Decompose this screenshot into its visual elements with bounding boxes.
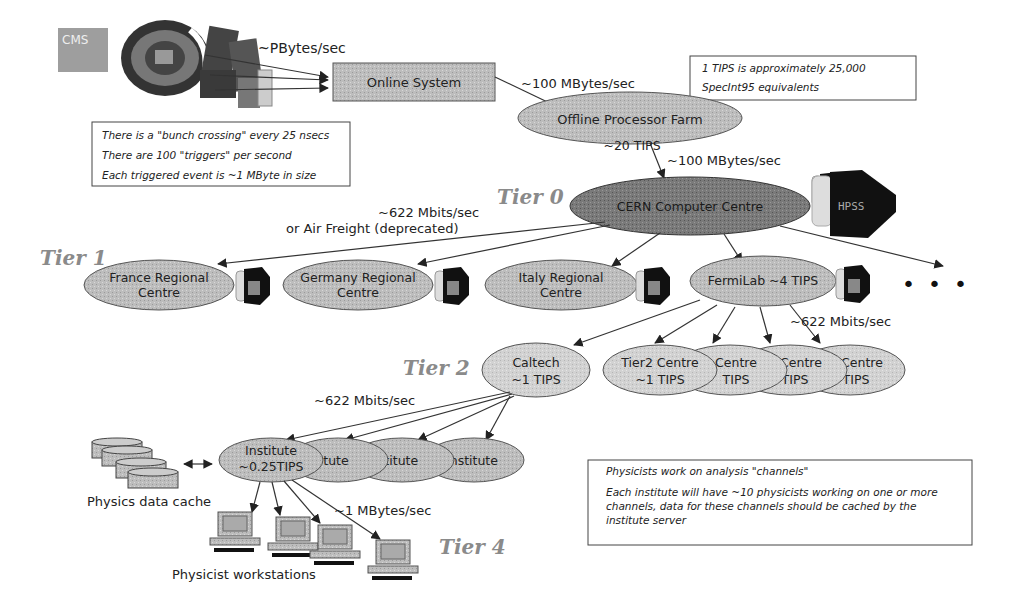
offline-processor-farm-node: Offline Processor Farm ~20 TIPS xyxy=(518,92,742,153)
more-centres-ellipsis: • • • xyxy=(902,272,970,297)
svg-text:Physicists work on analysis "c: Physicists work on analysis "channels" xyxy=(606,465,808,477)
france-regional-centre-node: France Regional Centre xyxy=(84,260,234,310)
svg-text:Caltech: Caltech xyxy=(512,355,559,370)
link-label-622-fermilab: ~622 Mbits/sec xyxy=(790,314,891,329)
italy-regional-centre-node: Italy Regional Centre xyxy=(485,260,637,310)
svg-text:Italy Regional: Italy Regional xyxy=(518,270,603,285)
physicists-note-box: Physicists work on analysis "channels" E… xyxy=(588,460,972,545)
svg-text:1 TIPS is approximately 25,000: 1 TIPS is approximately 25,000 xyxy=(702,62,866,74)
svg-text:Each institute will have ~10 p: Each institute will have ~10 physicists … xyxy=(606,486,938,498)
france-server-icon xyxy=(236,267,270,305)
svg-text:FermiLab ~4 TIPS: FermiLab ~4 TIPS xyxy=(708,273,819,288)
tips-note-box: 1 TIPS is approximately 25,000 SpecInt95… xyxy=(690,56,916,100)
svg-text:Institute: Institute xyxy=(245,443,297,458)
svg-text:SpecInt95 equivalents: SpecInt95 equivalents xyxy=(702,81,820,93)
fermilab-server-icon xyxy=(836,265,870,303)
svg-text:Centre: Centre xyxy=(715,355,757,370)
svg-text:Germany Regional: Germany Regional xyxy=(300,270,415,285)
svg-text:Each triggered event is ~1 MBy: Each triggered event is ~1 MByte in size xyxy=(102,169,316,181)
detector-illustration xyxy=(121,20,272,108)
physicist-workstations-label: Physicist workstations xyxy=(172,567,316,582)
germany-regional-centre-node: Germany Regional Centre xyxy=(283,260,433,310)
tier0-label: Tier 0 xyxy=(497,185,564,209)
link-label-100mb-a: ~100 MBytes/sec xyxy=(521,76,635,91)
physics-data-cache-label: Physics data cache xyxy=(87,494,211,509)
svg-text:Centre: Centre xyxy=(138,285,180,300)
svg-text:France Regional: France Regional xyxy=(109,270,208,285)
svg-text:~1 TIPS: ~1 TIPS xyxy=(635,372,684,387)
link-label-pbytes: ~PBytes/sec xyxy=(258,40,346,56)
online-system-node: Online System xyxy=(333,63,495,101)
tier2-centre-node: Tier2 Centre ~1 TIPS xyxy=(603,345,717,395)
svg-text:~1 TIPS: ~1 TIPS xyxy=(511,372,560,387)
link-label-air-freight: or Air Freight (deprecated) xyxy=(286,221,459,236)
svg-text:Online System: Online System xyxy=(367,75,462,90)
svg-text:There is a "bunch crossing" ev: There is a "bunch crossing" every 25 nse… xyxy=(102,129,330,141)
hpss-big-icon: HPSS xyxy=(812,170,896,238)
caltech-node: Caltech ~1 TIPS xyxy=(482,343,590,397)
fermilab-to-tier2-edges xyxy=(574,300,820,345)
svg-text:tute: tute xyxy=(323,453,349,468)
svg-text:CERN Computer Centre: CERN Computer Centre xyxy=(617,199,764,214)
workstation-icon-4 xyxy=(368,540,418,580)
cms-logo: CMS xyxy=(58,28,108,72)
link-label-622-caltech: ~622 Mbits/sec xyxy=(314,393,415,408)
svg-text:Tier2 Centre: Tier2 Centre xyxy=(620,355,699,370)
fermilab-node: FermiLab ~4 TIPS xyxy=(690,256,836,306)
workstation-icon-3 xyxy=(310,525,360,565)
trigger-note-box: There is a "bunch crossing" every 25 nse… xyxy=(92,122,350,186)
svg-text:~20 TIPS: ~20 TIPS xyxy=(603,138,660,153)
tier2-label: Tier 2 xyxy=(403,356,470,380)
italy-server-icon xyxy=(636,267,670,305)
svg-text:~0.25TIPS: ~0.25TIPS xyxy=(238,459,303,474)
link-label-100mb-b: ~100 MBytes/sec xyxy=(667,153,781,168)
tier4-label: Tier 4 xyxy=(439,535,506,559)
link-label-622-cern: ~622 Mbits/sec xyxy=(378,205,479,220)
tier1-label: Tier 1 xyxy=(40,246,107,270)
germany-server-icon xyxy=(435,267,469,305)
link-label-1mb: ~1 MBytes/sec xyxy=(334,503,431,518)
cms-label: CMS xyxy=(62,33,88,47)
svg-text:channels, data for these chann: channels, data for these channels should… xyxy=(606,500,916,512)
svg-text:institute server: institute server xyxy=(606,514,687,526)
svg-text:HPSS: HPSS xyxy=(838,200,865,213)
workstation-icon-1 xyxy=(210,512,260,552)
svg-text:Offline Processor Farm: Offline Processor Farm xyxy=(557,112,703,127)
physics-data-cache-icon xyxy=(92,438,178,488)
svg-text:There are 100 "triggers" per s: There are 100 "triggers" per second xyxy=(102,149,292,161)
svg-text:Centre: Centre xyxy=(337,285,379,300)
svg-text:Centre: Centre xyxy=(540,285,582,300)
institute-main-node: Institute ~0.25TIPS xyxy=(219,438,323,482)
svg-text:TIPS: TIPS xyxy=(722,372,750,387)
